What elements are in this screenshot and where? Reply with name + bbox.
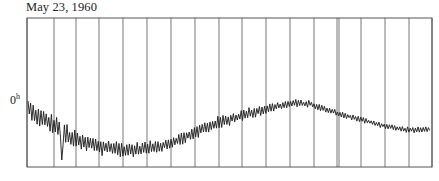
- gridlines: [27, 18, 432, 167]
- data-trace: [28, 99, 430, 160]
- plot-area: [0, 0, 439, 181]
- plot-frame: [27, 18, 432, 167]
